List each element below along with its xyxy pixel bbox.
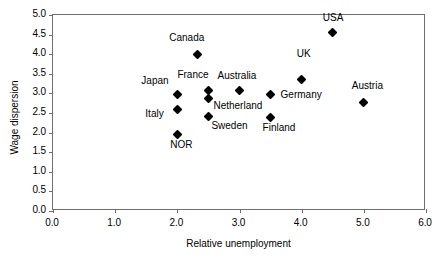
data-point-label: France [177, 69, 208, 80]
x-tick-label: 2.0 [159, 218, 193, 228]
y-tick-label: 4.0 [20, 48, 46, 58]
data-point-label: Netherland [213, 100, 262, 111]
y-tick-mark [49, 152, 53, 153]
y-tick-label: 0.0 [20, 205, 46, 215]
data-point-label: Germany [281, 89, 322, 100]
y-tick-label: 4.5 [20, 29, 46, 39]
y-tick-mark [49, 191, 53, 192]
y-tick-label: 1.5 [20, 146, 46, 156]
x-axis-title: Relative unemployment [52, 238, 425, 249]
scatter-chart: Wage dispersion Relative unemployment 0.… [0, 0, 437, 259]
y-tick-mark [49, 54, 53, 55]
data-point-label: Japan [141, 75, 168, 86]
y-tick-mark [49, 93, 53, 94]
x-tick-mark [115, 209, 116, 213]
y-tick-label: 3.5 [20, 68, 46, 78]
data-point [192, 50, 202, 60]
data-point-label: Finland [263, 122, 296, 133]
data-point [172, 129, 182, 139]
y-tick-label: 5.0 [20, 9, 46, 19]
y-tick-mark [49, 113, 53, 114]
x-tick-label: 6.0 [408, 218, 437, 228]
x-tick-label: 5.0 [346, 218, 380, 228]
y-tick-label: 2.0 [20, 127, 46, 137]
data-point [328, 28, 338, 38]
data-point [359, 97, 369, 107]
plot-area: JapanItalyNORCanadaFranceNetherlandSwede… [52, 14, 425, 210]
data-point-label: Sweden [211, 120, 247, 131]
y-tick-mark [49, 15, 53, 16]
x-tick-mark [240, 209, 241, 213]
x-tick-label: 4.0 [284, 218, 318, 228]
data-point-label: Italy [145, 108, 163, 119]
data-point [172, 89, 182, 99]
x-tick-mark [302, 209, 303, 213]
x-tick-mark [53, 209, 54, 213]
data-point [266, 90, 276, 100]
y-tick-mark [49, 172, 53, 173]
y-tick-mark [49, 133, 53, 134]
data-point-label: Australia [218, 70, 257, 81]
x-tick-mark [364, 209, 365, 213]
x-tick-label: 1.0 [97, 218, 131, 228]
x-tick-label: 0.0 [35, 218, 69, 228]
y-tick-mark [49, 74, 53, 75]
x-tick-mark [426, 209, 427, 213]
y-axis-title: Wage dispersion [9, 58, 20, 178]
data-point-label: UK [297, 48, 311, 59]
data-point [297, 74, 307, 84]
y-tick-label: 1.0 [20, 166, 46, 176]
data-point-label: NOR [170, 139, 192, 150]
y-tick-label: 2.5 [20, 107, 46, 117]
data-point-label: USA [323, 12, 344, 23]
x-tick-mark [177, 209, 178, 213]
x-tick-label: 3.0 [222, 218, 256, 228]
y-tick-mark [49, 35, 53, 36]
data-point [172, 104, 182, 114]
data-point [203, 94, 213, 104]
data-point-label: Canada [169, 32, 204, 43]
y-tick-label: 0.5 [20, 185, 46, 195]
y-tick-label: 3.0 [20, 87, 46, 97]
data-point-label: Austria [352, 80, 383, 91]
data-point [235, 86, 245, 96]
